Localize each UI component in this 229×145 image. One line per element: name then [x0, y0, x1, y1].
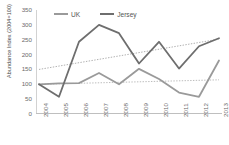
y-axis-tick-labels: 350300250200150100500	[12, 0, 32, 145]
x-tick-2006: 2006	[82, 103, 89, 117]
y-tick-100: 100	[14, 81, 32, 87]
x-tick-2004: 2004	[42, 103, 49, 117]
y-tick-300: 300	[14, 22, 32, 28]
x-tick-2008: 2008	[122, 103, 129, 117]
x-tick-2011: 2011	[182, 103, 189, 117]
y-tick-350: 350	[14, 7, 32, 13]
y-tick-250: 250	[14, 37, 32, 43]
y-tick-150: 150	[14, 66, 32, 72]
x-tick-2009: 2009	[142, 103, 149, 117]
series-line-jersey	[39, 25, 219, 97]
y-axis-line	[36, 10, 37, 114]
plot-area	[36, 10, 222, 114]
y-tick-50: 50	[14, 96, 32, 102]
x-tick-2007: 2007	[102, 103, 109, 117]
x-tick-2012: 2012	[202, 103, 209, 117]
y-tick-0: 0	[14, 111, 32, 117]
abundance-index-line-chart: Abundance Index (2004=100) 3503002502001…	[0, 0, 229, 145]
x-tick-2013: 2013	[222, 103, 229, 117]
y-tick-200: 200	[14, 52, 32, 58]
x-tick-2005: 2005	[62, 103, 69, 117]
series-lines	[36, 10, 222, 114]
x-tick-2010: 2010	[162, 103, 169, 117]
